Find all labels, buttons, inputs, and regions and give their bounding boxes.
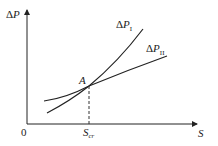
curve-label-ii: ΔPII (146, 42, 165, 57)
curve-label-i: ΔPI (116, 18, 133, 33)
diagram-canvas: ΔP ΔPI ΔPII A 0 Scr S (0, 0, 218, 146)
x-axis-label: S (198, 127, 204, 139)
curve-delta-p-ii (44, 56, 167, 101)
curve-delta-p-i (47, 29, 143, 113)
origin-label: 0 (21, 126, 27, 138)
critical-label: Scr (83, 126, 95, 140)
intersection-label: A (78, 74, 86, 86)
y-axis-label: ΔP (6, 8, 20, 20)
